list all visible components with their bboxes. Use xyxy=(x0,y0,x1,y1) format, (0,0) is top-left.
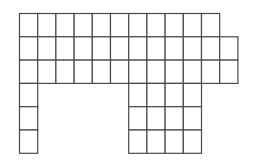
grid-cell xyxy=(20,37,38,60)
grid-cell xyxy=(38,60,56,83)
grid-cell xyxy=(129,37,147,60)
grid-cell xyxy=(165,130,183,153)
grid-cell xyxy=(20,60,38,83)
grid-cell xyxy=(38,14,56,37)
grid-cell xyxy=(220,60,238,83)
grid-cell xyxy=(183,60,201,83)
grid-cell xyxy=(183,37,201,60)
grid-cell xyxy=(56,60,74,83)
grid-cell xyxy=(202,37,220,60)
grid-cell xyxy=(20,14,38,37)
grid-cell xyxy=(202,14,220,37)
grid-cell xyxy=(111,37,129,60)
grid-cell xyxy=(183,14,201,37)
grid-cell xyxy=(74,37,92,60)
grid-cell xyxy=(147,83,165,106)
grid-cell xyxy=(183,83,201,106)
grid-cell xyxy=(74,60,92,83)
grid-cell xyxy=(183,107,201,130)
grid-cell xyxy=(56,37,74,60)
grid-diagram xyxy=(0,0,253,165)
grid-cell xyxy=(92,37,110,60)
grid-cell xyxy=(129,83,147,106)
grid-cell xyxy=(147,14,165,37)
grid-cell xyxy=(220,37,238,60)
grid-cell xyxy=(38,37,56,60)
grid-cell xyxy=(111,60,129,83)
grid-cell xyxy=(129,130,147,153)
grid-cell xyxy=(129,107,147,130)
grid-cell xyxy=(56,14,74,37)
grid-cell xyxy=(92,14,110,37)
grid-cell xyxy=(165,83,183,106)
grid-cell xyxy=(165,107,183,130)
grid-cell xyxy=(147,130,165,153)
grid-cell xyxy=(111,14,129,37)
grid-cell xyxy=(147,37,165,60)
grid-cell xyxy=(165,60,183,83)
grid-cell xyxy=(20,130,38,153)
grid-cell xyxy=(20,107,38,130)
grid-cell xyxy=(183,130,201,153)
grid-cell xyxy=(147,107,165,130)
grid-cell xyxy=(202,60,220,83)
grid-cell xyxy=(129,60,147,83)
grid-cell xyxy=(92,60,110,83)
grid-cell xyxy=(20,83,38,106)
grid-cell xyxy=(129,14,147,37)
grid-cell xyxy=(147,60,165,83)
grid-cell xyxy=(165,14,183,37)
grid-cell xyxy=(74,14,92,37)
grid-cell xyxy=(165,37,183,60)
